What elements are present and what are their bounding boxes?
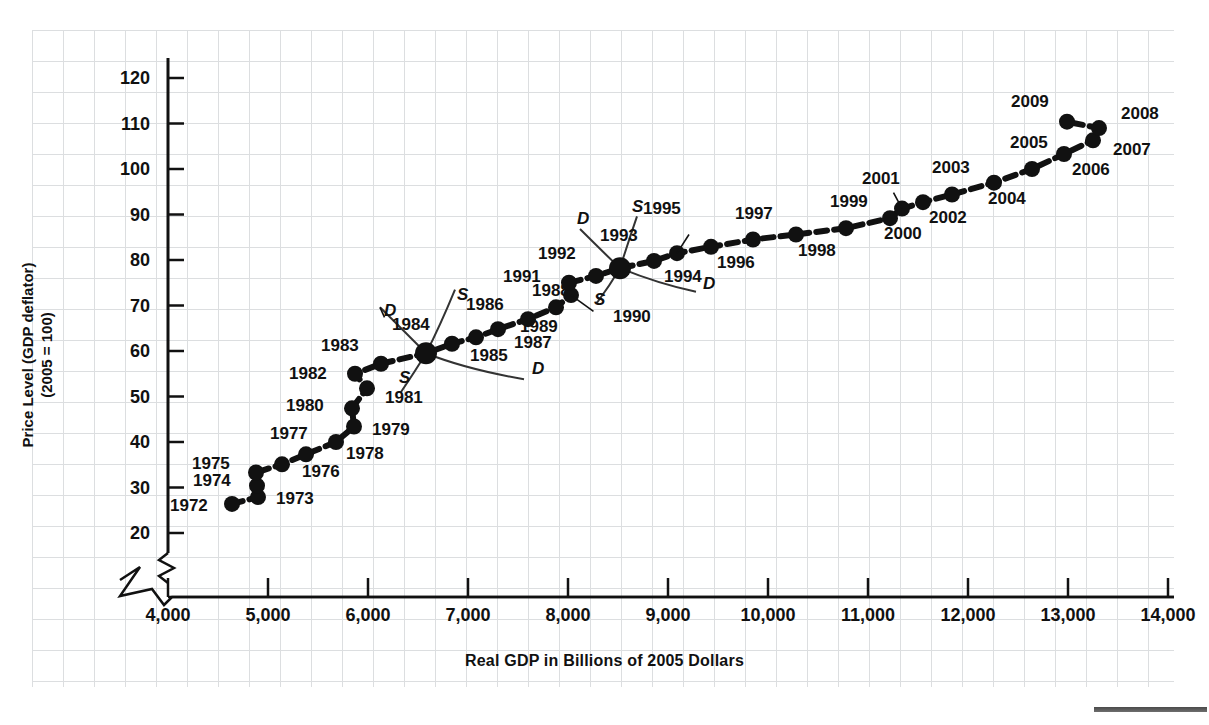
data-point-marker xyxy=(328,434,344,450)
data-point-marker xyxy=(1059,114,1075,130)
data-point-label: 1983 xyxy=(321,336,359,356)
data-point-label: 1977 xyxy=(270,424,308,444)
data-point-marker xyxy=(298,446,314,462)
data-point-marker xyxy=(274,456,290,472)
data-point-marker xyxy=(490,321,506,337)
data-point-label: 1976 xyxy=(302,462,340,482)
data-point-marker xyxy=(346,419,362,435)
data-point-label: 1990 xyxy=(613,307,651,327)
data-point-marker xyxy=(588,268,604,284)
data-point-marker xyxy=(359,380,375,396)
data-point-label: 1994 xyxy=(664,267,702,287)
data-point-label: 1975 xyxy=(192,454,230,474)
data-point-label: 2004 xyxy=(988,189,1026,209)
data-point-label: 1992 xyxy=(538,244,576,264)
data-point-marker xyxy=(646,253,662,269)
data-point-label: 2001 xyxy=(862,169,900,189)
data-point-label: 1998 xyxy=(798,241,836,261)
data-point-marker xyxy=(224,496,240,512)
data-point-label: 1984 xyxy=(392,315,430,335)
demand-curve-label-1984-annotation: D xyxy=(384,301,396,321)
data-point-label: 1982 xyxy=(289,364,327,384)
data-point-label: 1989 xyxy=(520,317,558,337)
data-point-marker xyxy=(344,400,360,416)
data-point-label: 1985 xyxy=(470,346,508,366)
data-point-marker xyxy=(1091,120,1107,136)
data-point-marker xyxy=(745,232,761,248)
supply-curve-label-1993-upper-annotation: S xyxy=(632,197,643,217)
data-point-label: 1995 xyxy=(643,199,681,219)
data-point-label: 2003 xyxy=(932,158,970,178)
data-point-label: 1972 xyxy=(170,496,208,516)
y-axis-break-symbol xyxy=(159,553,174,583)
data-point-marker xyxy=(1024,161,1040,177)
data-point-marker xyxy=(609,257,631,279)
label-leader-line xyxy=(571,295,594,311)
data-point-label: 2009 xyxy=(1011,92,1049,112)
data-point-marker xyxy=(415,342,437,364)
data-point-marker xyxy=(1056,146,1072,162)
data-point-label: 2008 xyxy=(1121,104,1159,124)
data-point-marker xyxy=(444,336,460,352)
data-point-label: 2005 xyxy=(1010,133,1048,153)
demand-curve-label-1993-annotation: D xyxy=(577,209,589,229)
supply-curve-label-1984-upper-annotation: S xyxy=(457,285,468,305)
data-point-label: 1999 xyxy=(830,192,868,212)
data-point-marker xyxy=(944,186,960,202)
scan-artifact-bar xyxy=(1094,707,1207,712)
supply-curve-label-1993-annotation: S xyxy=(594,290,605,310)
demand-curve-label-1993-lower-annotation: D xyxy=(703,274,715,294)
data-point-marker xyxy=(548,299,564,315)
demand-curve-label-1984-lower-annotation: D xyxy=(532,359,544,379)
x-axis-break-symbol xyxy=(120,567,1174,605)
data-point-marker xyxy=(373,356,389,372)
data-point-label: 1993 xyxy=(600,226,638,246)
data-point-label: 1986 xyxy=(466,295,504,315)
data-point-label: 1997 xyxy=(735,204,773,224)
data-point-label: 2000 xyxy=(884,224,922,244)
data-point-marker xyxy=(347,366,363,382)
supply-curve-label-1984-annotation: S xyxy=(399,368,410,388)
data-point-label: 1979 xyxy=(372,420,410,440)
data-point-label: 1991 xyxy=(503,267,541,287)
data-point-label: 1981 xyxy=(385,388,423,408)
data-point-label: 1996 xyxy=(717,253,755,273)
data-point-marker xyxy=(468,329,484,345)
data-point-marker xyxy=(838,220,854,236)
data-point-label: 2006 xyxy=(1072,160,1110,180)
data-point-label: 1973 xyxy=(276,489,314,509)
data-point-label: 2002 xyxy=(929,208,967,228)
chart-figure: Price Level (GDP deflator) (2005 = 100) … xyxy=(0,0,1209,725)
data-point-label: 1980 xyxy=(286,396,324,416)
data-point-label: 1978 xyxy=(346,444,384,464)
data-point-label: 2007 xyxy=(1113,140,1151,160)
data-point-marker xyxy=(248,464,264,480)
